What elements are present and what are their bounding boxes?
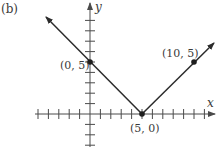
x-axis: x bbox=[35, 96, 215, 119]
point-label-0-5: (0, 5) bbox=[60, 59, 90, 72]
point-10-5 bbox=[191, 59, 197, 65]
absolute-value-graph-figure: (b) x y (0, 5) (5, 0) (10, 5) bbox=[0, 0, 216, 147]
y-axis-label: y bbox=[94, 0, 102, 14]
y-axis: y bbox=[85, 0, 102, 147]
point-5-0 bbox=[139, 111, 145, 117]
point-label-5-0: (5, 0) bbox=[130, 122, 160, 135]
panel-label: (b) bbox=[1, 2, 18, 16]
labeled-points: (0, 5) (5, 0) (10, 5) bbox=[60, 47, 199, 135]
point-label-10-5: (10, 5) bbox=[162, 47, 199, 60]
x-axis-label: x bbox=[207, 96, 214, 110]
